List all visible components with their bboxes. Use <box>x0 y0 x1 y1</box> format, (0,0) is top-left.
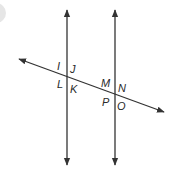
partial-circle-marker <box>0 3 6 23</box>
angle-label-o: O <box>117 100 126 112</box>
angle-label-p: P <box>102 96 110 108</box>
angle-label-l: L <box>57 78 63 90</box>
parallel-lines-diagram: I J L K M N P O <box>0 0 169 171</box>
angle-label-k: K <box>70 83 78 95</box>
angle-label-i: I <box>57 60 60 72</box>
angle-label-m: M <box>101 77 111 89</box>
transversal-line <box>19 59 164 112</box>
angle-label-n: N <box>118 82 126 94</box>
angle-label-j: J <box>69 63 76 75</box>
